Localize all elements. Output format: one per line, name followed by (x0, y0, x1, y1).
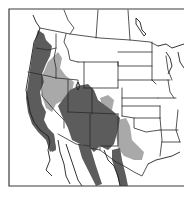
range-map (0, 0, 184, 201)
